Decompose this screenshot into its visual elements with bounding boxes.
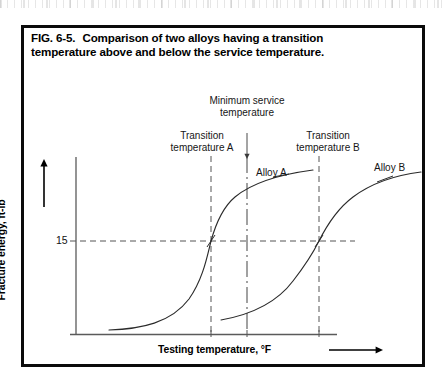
scan-noise-band xyxy=(0,0,446,8)
leader-arrowhead-min-service xyxy=(244,154,249,159)
x-axis-arrow xyxy=(329,346,383,353)
x-axis-title: Testing temperature, °F xyxy=(158,344,271,355)
label-transition-temperature-b: Transition temperature B xyxy=(276,130,380,153)
plot-svg xyxy=(21,25,425,367)
figure-root: FIG. 6-5.Comparison of two alloys having… xyxy=(0,0,446,386)
y-axis-title: Fracture energy, ft-lb xyxy=(0,175,7,325)
label-minimum-service-temperature: Minimum service temperature xyxy=(190,95,304,118)
plot-area xyxy=(21,25,425,367)
leader-line-alloy-b xyxy=(377,176,393,182)
y-axis-arrow xyxy=(40,159,47,207)
y-axis-tick-label-15: 15 xyxy=(56,234,68,246)
curve-alloy-b xyxy=(221,172,421,320)
label-alloy-a: Alloy A xyxy=(256,167,304,179)
label-alloy-b: Alloy B xyxy=(374,162,422,174)
label-transition-temperature-a: Transition temperature A xyxy=(152,130,252,153)
